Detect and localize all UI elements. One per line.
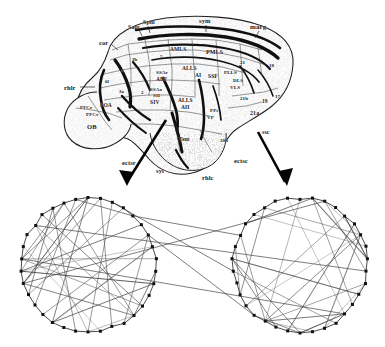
graph-edge: [246, 235, 361, 306]
figure-root: Spm Sam sym marg cor rhlr ectsr syl rhlc…: [0, 0, 385, 347]
graph-node: [286, 329, 289, 332]
graph-node: [22, 245, 25, 248]
graph-node: [274, 200, 277, 203]
graph-node: [343, 215, 346, 218]
graph-node: [253, 314, 256, 317]
interhemispheric-edge: [133, 216, 241, 236]
graph-node: [51, 207, 54, 210]
graph-edge: [313, 198, 368, 259]
graph-node: [62, 326, 65, 329]
graph-node: [20, 257, 23, 260]
graph-node: [148, 294, 151, 297]
graph-edge: [23, 198, 88, 284]
graph-node: [353, 222, 356, 225]
graph-node: [133, 314, 136, 317]
graph-edge: [288, 198, 345, 314]
graph-node: [335, 322, 338, 325]
graph-node: [122, 206, 125, 209]
graph-node: [99, 197, 102, 200]
graph-node: [323, 200, 326, 203]
graph-node: [63, 202, 66, 205]
graph-node: [152, 282, 155, 285]
interhemispheric-edge: [22, 259, 345, 314]
graph-node: [26, 233, 29, 236]
graph-edge: [265, 284, 365, 322]
graph-node: [351, 303, 354, 306]
graph-node: [311, 330, 314, 333]
graph-node: [51, 321, 54, 324]
graph-node: [232, 270, 235, 273]
graph-node: [239, 293, 242, 296]
graph-node: [41, 313, 44, 316]
graph-node: [264, 320, 267, 323]
graph-edge: [134, 271, 156, 315]
graph-node: [311, 197, 314, 200]
graph-node: [234, 245, 237, 248]
graph-node: [41, 213, 44, 216]
graph-node: [299, 332, 302, 335]
graph-node: [299, 198, 302, 201]
graph-node: [111, 201, 114, 204]
graph-node: [27, 293, 30, 296]
graph-node: [286, 197, 289, 200]
graph-node: [357, 293, 360, 296]
graph-node: [244, 222, 247, 225]
graph-node: [34, 224, 37, 227]
graph-node: [231, 257, 234, 260]
graph-edge: [22, 259, 143, 306]
graph-node: [74, 198, 77, 201]
graph-node: [154, 270, 157, 273]
graph-node: [274, 326, 277, 329]
graph-node: [323, 327, 326, 330]
graph-node: [366, 257, 369, 260]
interhemispheric-edge: [112, 202, 233, 271]
graph-node: [343, 312, 346, 315]
graph-node: [87, 330, 90, 333]
graph-node: [99, 330, 102, 333]
arrow-to-right-graph: [258, 132, 293, 186]
graph-node: [263, 206, 266, 209]
graph-node: [131, 214, 134, 217]
graph-node: [34, 304, 37, 307]
graph-node: [364, 282, 367, 285]
graph-node: [147, 234, 150, 237]
graph-edge: [22, 203, 64, 259]
graph-node: [74, 330, 77, 333]
graph-node: [20, 270, 23, 273]
graph-node: [235, 281, 238, 284]
graph-drawing: [0, 180, 385, 347]
graph-node: [334, 206, 337, 209]
graph-edge: [254, 315, 300, 333]
graph-node: [141, 305, 144, 308]
graph-node: [140, 223, 143, 226]
right-graph-ring: [232, 198, 367, 333]
graph-edge: [29, 208, 124, 295]
graph-node: [365, 245, 368, 248]
graph-node: [22, 282, 25, 285]
circular-graph-panel: [0, 180, 385, 347]
graph-node: [155, 257, 158, 260]
graph-node: [151, 245, 154, 248]
graph-edge: [265, 314, 344, 321]
graph-node: [110, 325, 113, 328]
graph-node: [87, 196, 90, 199]
graph-node: [253, 213, 256, 216]
graph-node: [239, 234, 242, 237]
graph-node: [359, 233, 362, 236]
graph-edge: [265, 199, 300, 321]
left-graph-edges: [21, 198, 156, 332]
graph-node: [365, 270, 368, 273]
graph-node: [245, 304, 248, 307]
graph-node: [123, 322, 126, 325]
arrow-to-left-graph: [119, 120, 166, 186]
